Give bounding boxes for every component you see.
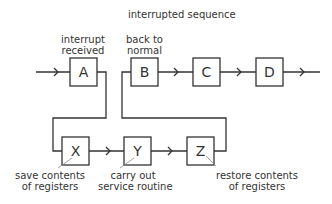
label-line: interrupt: [58, 34, 108, 45]
box-y: Y: [124, 137, 151, 165]
label-save-contents: save contents of registers: [10, 170, 90, 192]
label-restore-contents: restore contents of registers: [214, 170, 300, 192]
label-back-to-normal: back to normal: [122, 34, 167, 56]
label-line: of registers: [214, 181, 300, 192]
box-z: Z: [187, 137, 214, 165]
label-line: service routine: [98, 181, 168, 192]
box-c: C: [193, 58, 220, 86]
box-d: D: [256, 58, 283, 86]
box-a: A: [70, 58, 97, 86]
label-line: normal: [122, 45, 167, 56]
label-interrupt-received: interrupt received: [58, 34, 108, 56]
label-line: restore contents: [214, 170, 300, 181]
diagram-title: interrupted sequence: [128, 9, 236, 20]
label-line: carry out: [98, 170, 168, 181]
box-b: B: [131, 58, 158, 86]
box-x: X: [62, 137, 89, 165]
label-line: back to: [122, 34, 167, 45]
label-line: of registers: [10, 181, 90, 192]
label-carry-out: carry out service routine: [98, 170, 168, 192]
label-line: received: [58, 45, 108, 56]
label-line: save contents: [10, 170, 90, 181]
